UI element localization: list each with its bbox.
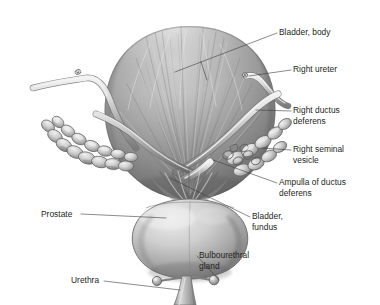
leader-urethra (104, 281, 180, 290)
prostate (132, 199, 247, 282)
anatomical-illustration: Bladder, body Right ureter Right ductus … (0, 0, 380, 305)
label-right-ductus-deferens: Right ductus deferens (293, 105, 342, 126)
label-right-ureter: Right ureter (293, 64, 337, 74)
label-right-seminal-vesicle: Right seminal vesicle (293, 144, 346, 165)
label-ampulla-of-ductus-deferens: Ampulla of ductus deferens (279, 177, 348, 198)
label-urethra: Urethra (71, 275, 99, 285)
label-bladder-fundus: Bladder, fundus (252, 211, 285, 232)
label-prostate: Prostate (41, 209, 73, 219)
label-bladder-body: Bladder, body (279, 27, 331, 37)
